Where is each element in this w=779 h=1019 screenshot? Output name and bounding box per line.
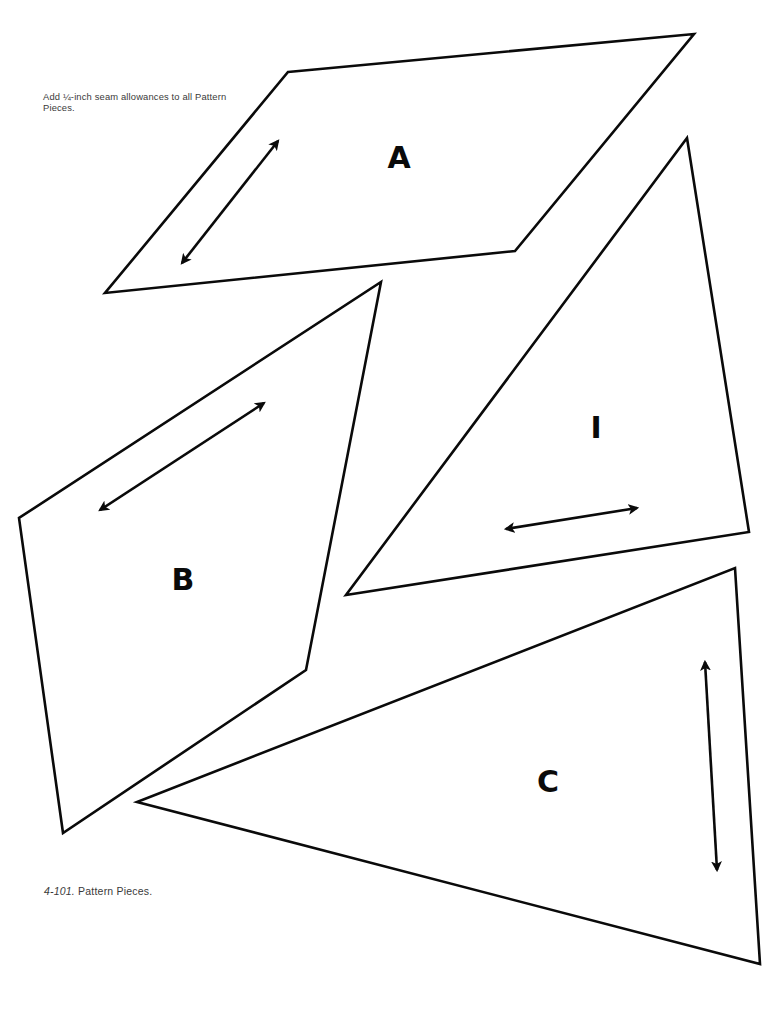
piece-label: B — [172, 562, 195, 597]
grainline-double-arrow-icon — [506, 508, 637, 529]
piece-outline — [346, 138, 749, 595]
seam-allowance-note: Add ¼-inch seam allowances to all Patter… — [43, 92, 243, 113]
piece-label: A — [387, 140, 411, 175]
pattern-piece-b: B — [19, 282, 381, 833]
piece-label: C — [537, 764, 559, 799]
piece-label: I — [590, 410, 601, 445]
pattern-piece-i: I — [346, 138, 749, 595]
figure-caption: 4-101. Pattern Pieces. — [44, 885, 152, 897]
pattern-piece-c: C — [137, 568, 760, 964]
piece-outline — [137, 568, 760, 964]
pattern-page: ABIC Add ¼-inch seam allowances to all P… — [0, 0, 779, 1019]
grainline-double-arrow-icon — [100, 403, 264, 510]
pattern-piece-a: A — [105, 34, 694, 293]
figure-title: Pattern Pieces. — [78, 885, 152, 897]
grainline-double-arrow-icon — [182, 141, 278, 263]
figure-number: 4-101. — [44, 885, 75, 897]
piece-outline — [19, 282, 381, 833]
grainline-double-arrow-icon — [705, 662, 717, 870]
pattern-pieces-drawing: ABIC — [0, 0, 779, 1019]
